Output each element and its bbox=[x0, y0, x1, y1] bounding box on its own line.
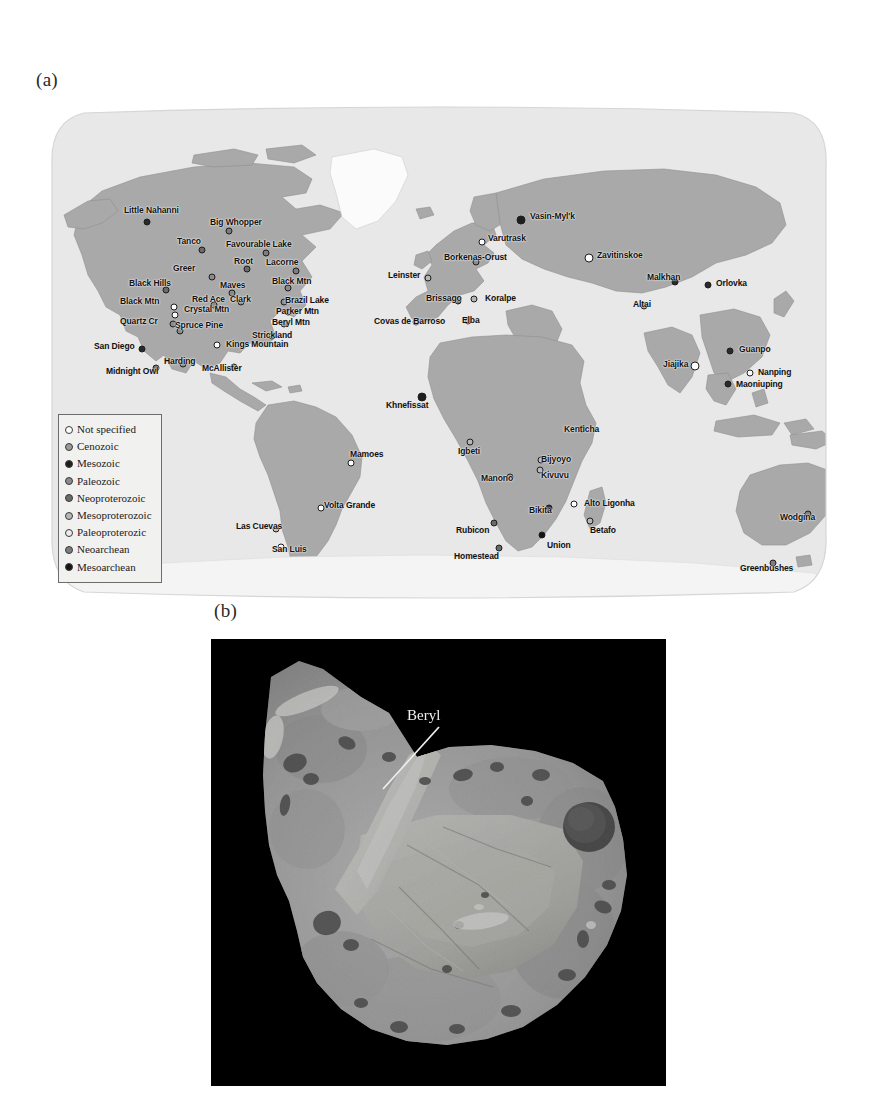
legend-item[interactable]: Mesoproterozoic bbox=[65, 507, 156, 524]
legend-swatch-icon bbox=[65, 546, 73, 554]
legend-swatch-icon bbox=[65, 494, 73, 502]
site-dot-icon bbox=[425, 275, 432, 282]
legend-swatch-icon bbox=[65, 426, 73, 434]
map-site-label: Maves bbox=[220, 281, 246, 290]
legend-item[interactable]: Mesoarchean bbox=[65, 559, 156, 576]
map-site-marker[interactable] bbox=[691, 362, 700, 371]
map-site-label: Betafo bbox=[590, 526, 616, 535]
map-site-label: Black Hills bbox=[129, 279, 171, 288]
map-site-marker[interactable] bbox=[293, 268, 300, 275]
map-site-label: Varutrask bbox=[488, 234, 526, 243]
map-site-marker[interactable] bbox=[172, 312, 179, 319]
map-site-label: Elba bbox=[462, 316, 480, 325]
map-site-marker[interactable] bbox=[425, 275, 432, 282]
map-site-marker[interactable] bbox=[209, 274, 216, 281]
legend-item-label: Mesoproterozoic bbox=[77, 510, 152, 521]
site-dot-icon bbox=[587, 518, 594, 525]
map-site-marker[interactable] bbox=[491, 520, 498, 527]
map-site-label: Beryl Mtn bbox=[272, 318, 310, 327]
map-site-marker[interactable] bbox=[587, 518, 594, 525]
site-dot-icon bbox=[293, 268, 300, 275]
map-site-label: Altai bbox=[633, 300, 651, 309]
map-site-label: McAllister bbox=[202, 364, 242, 373]
map-site-marker[interactable] bbox=[585, 254, 594, 263]
map-site-marker[interactable] bbox=[214, 342, 221, 349]
site-dot-icon bbox=[263, 250, 270, 257]
legend-swatch-icon bbox=[65, 443, 73, 451]
site-dot-icon bbox=[226, 228, 233, 235]
map-site-marker[interactable] bbox=[226, 228, 233, 235]
map-site-marker[interactable] bbox=[471, 296, 478, 303]
map-site-marker[interactable] bbox=[539, 532, 546, 539]
map-site-marker[interactable] bbox=[139, 346, 146, 353]
site-dot-icon bbox=[471, 296, 478, 303]
site-dot-icon bbox=[571, 501, 578, 508]
site-dot-icon bbox=[747, 370, 754, 377]
legend-item[interactable]: Paleozoic bbox=[65, 473, 156, 490]
map-site-label: Leinster bbox=[388, 271, 420, 280]
site-dot-icon bbox=[209, 274, 216, 281]
legend-item[interactable]: Cenozoic bbox=[65, 438, 156, 455]
map-site-label: Kivuvu bbox=[541, 471, 569, 480]
map-site-label: Little Nahanni bbox=[124, 206, 179, 215]
map-site-label: Alto Ligonha bbox=[584, 499, 635, 508]
map-site-label: Koralpe bbox=[485, 294, 516, 303]
map-site-label: Kings Mountain bbox=[226, 340, 288, 349]
map-site-label: Brissago bbox=[426, 294, 462, 303]
map-site-marker[interactable] bbox=[244, 266, 251, 273]
beryl-annotation-label: Beryl bbox=[407, 707, 440, 724]
map-site-label: Guanpo bbox=[739, 345, 771, 354]
legend-item-label: Paleoproterozic bbox=[77, 527, 146, 538]
map-site-label: Borkenas-Orust bbox=[444, 253, 507, 262]
site-dot-icon bbox=[705, 282, 712, 289]
site-dot-icon bbox=[491, 520, 498, 527]
map-site-marker[interactable] bbox=[348, 460, 355, 467]
map-site-marker[interactable] bbox=[467, 439, 474, 446]
map-svg bbox=[44, 105, 834, 600]
map-site-marker[interactable] bbox=[725, 381, 732, 388]
legend-item[interactable]: Paleoproterozic bbox=[65, 524, 156, 541]
map-site-label: Igbeti bbox=[458, 447, 480, 456]
legend-item-label: Paleozoic bbox=[77, 476, 120, 487]
map-site-marker[interactable] bbox=[263, 250, 270, 257]
legend-swatch-icon bbox=[65, 477, 73, 485]
site-dot-icon bbox=[144, 219, 151, 226]
legend-item[interactable]: Neoarchean bbox=[65, 541, 156, 558]
map-site-label: Rubicon bbox=[456, 526, 489, 535]
map-site-label: Homestead bbox=[454, 552, 499, 561]
legend-item[interactable]: Not specified bbox=[65, 421, 156, 438]
map-site-label: Midnight Owl bbox=[106, 367, 158, 376]
site-dot-icon bbox=[172, 312, 179, 319]
legend-item-label: Mesoarchean bbox=[77, 562, 136, 573]
map-site-marker[interactable] bbox=[571, 501, 578, 508]
site-dot-icon bbox=[479, 239, 486, 246]
map-legend: Not specifiedCenozoicMesozoicPaleozoicNe… bbox=[58, 414, 162, 583]
site-dot-icon bbox=[725, 381, 732, 388]
map-site-marker[interactable] bbox=[144, 219, 151, 226]
map-site-marker[interactable] bbox=[517, 216, 526, 225]
map-site-label: Red Ace bbox=[192, 295, 225, 304]
world-map-panel: Little NahanniBig WhopperTancoFavourable… bbox=[44, 105, 834, 600]
site-dot-icon bbox=[517, 216, 526, 225]
rock-sample-photo: Beryl bbox=[211, 639, 666, 1086]
map-site-marker[interactable] bbox=[747, 370, 754, 377]
map-site-marker[interactable] bbox=[727, 348, 734, 355]
map-site-marker[interactable] bbox=[479, 239, 486, 246]
site-dot-icon bbox=[199, 247, 206, 254]
map-site-label: Bijyoyo bbox=[541, 455, 571, 464]
map-site-label: Nanping bbox=[758, 368, 791, 377]
site-dot-icon bbox=[139, 346, 146, 353]
site-dot-icon bbox=[348, 460, 355, 467]
map-site-label: San Luis bbox=[272, 545, 307, 554]
legend-item[interactable]: Mesozoic bbox=[65, 455, 156, 472]
map-basemap bbox=[44, 105, 834, 600]
map-site-marker[interactable] bbox=[171, 304, 178, 311]
map-site-marker[interactable] bbox=[705, 282, 712, 289]
site-dot-icon bbox=[171, 304, 178, 311]
map-site-label: Harding bbox=[164, 357, 195, 366]
site-dot-icon bbox=[585, 254, 594, 263]
map-site-marker[interactable] bbox=[199, 247, 206, 254]
figure-container: (a) bbox=[0, 0, 875, 1106]
legend-item[interactable]: Neoproterozoic bbox=[65, 490, 156, 507]
site-dot-icon bbox=[727, 348, 734, 355]
